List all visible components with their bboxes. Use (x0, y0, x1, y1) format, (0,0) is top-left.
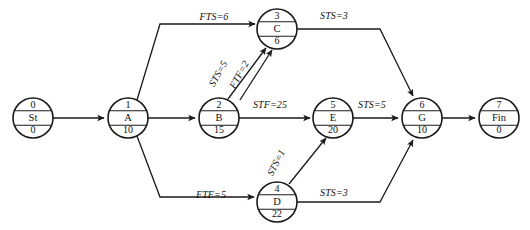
node-name: G (418, 112, 426, 123)
network-diagram-svg: 0St01A102B153C64D225E206G107Fin0 FTS=6FT… (0, 0, 530, 230)
node-d[interactable]: 4D22 (257, 182, 297, 222)
node-number: 6 (420, 99, 425, 110)
node-duration: 10 (123, 124, 133, 135)
node-name: B (215, 112, 222, 123)
nodes-layer: 0St01A102B153C64D225E206G107Fin0 (13, 9, 519, 222)
node-number: 2 (217, 99, 222, 110)
node-name: St (29, 112, 38, 123)
node-name: Fin (492, 112, 507, 123)
node-number: 0 (31, 99, 36, 110)
node-a[interactable]: 1A10 (108, 98, 148, 138)
edge-label-n2-to-n3: FTF=2 (226, 59, 251, 91)
node-g[interactable]: 6G10 (402, 98, 442, 138)
node-c[interactable]: 3C6 (257, 9, 297, 49)
node-name: C (273, 23, 280, 34)
edge-n1-to-n4 (137, 136, 254, 197)
node-duration: 0 (31, 124, 36, 135)
node-duration: 15 (214, 124, 224, 135)
node-duration: 20 (328, 124, 338, 135)
node-fin[interactable]: 7Fin0 (479, 98, 519, 138)
node-number: 4 (275, 183, 280, 194)
node-duration: 0 (497, 124, 502, 135)
edge-label-n1-to-n3: FTS=6 (199, 11, 229, 22)
edge-n3-to-n6 (297, 29, 413, 96)
edge-label-n5-to-n6: STS=5 (358, 99, 386, 110)
node-name: D (273, 196, 281, 207)
node-duration: 6 (275, 35, 280, 46)
node-number: 1 (126, 99, 131, 110)
edge-label-n3-to-n6: STS=3 (320, 10, 348, 21)
edge-n4-to-n6 (297, 140, 413, 202)
edge-label-n1-to-n4: FTF=5 (195, 189, 226, 200)
node-st[interactable]: 0St0 (13, 98, 53, 138)
node-duration: 22 (272, 208, 282, 219)
node-number: 5 (331, 99, 336, 110)
node-number: 3 (275, 10, 280, 21)
node-number: 7 (497, 99, 502, 110)
edge-label-n4-to-n5: STS=1 (265, 148, 287, 178)
node-name: A (124, 112, 132, 123)
node-b[interactable]: 2B15 (199, 98, 239, 138)
network-diagram-canvas: 0St01A102B153C64D225E206G107Fin0 FTS=6FT… (0, 0, 530, 230)
node-duration: 10 (417, 124, 427, 135)
edge-label-n4-to-n6: STS=3 (320, 187, 348, 198)
edge-n4-to-n5 (289, 138, 326, 184)
edge-label-n2-to-n3: STS=5 (206, 59, 229, 89)
edge-label-n2-to-n5: STF=25 (253, 99, 287, 110)
node-e[interactable]: 5E20 (313, 98, 353, 138)
node-name: E (330, 112, 336, 123)
